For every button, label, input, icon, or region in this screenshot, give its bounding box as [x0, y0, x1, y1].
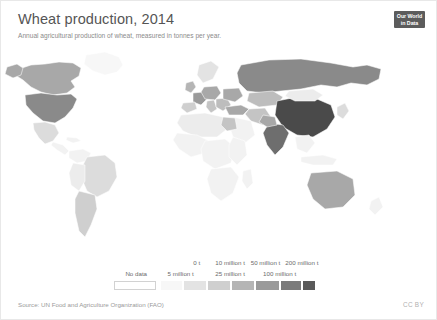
our-world-in-data-logo[interactable]: Our World in Data: [394, 11, 425, 28]
country-japan[interactable]: [337, 103, 349, 119]
legend-swatch-0[interactable]: [160, 281, 182, 290]
license-note[interactable]: CC BY: [403, 301, 424, 308]
country-peru-bolivia[interactable]: [69, 163, 85, 191]
page-title: Wheat production, 2014: [18, 11, 426, 28]
legend-swatch-5[interactable]: [280, 281, 302, 290]
country-spain[interactable]: [181, 102, 197, 113]
country-mexico[interactable]: [33, 122, 59, 144]
legend-boundary-3: 200 million t: [285, 259, 318, 266]
country-new-zealand[interactable]: [369, 197, 383, 215]
legend-bin-label-2[interactable]: 100 million t: [263, 270, 296, 277]
country-canada[interactable]: [15, 62, 81, 95]
legend-swatch-1[interactable]: [183, 281, 207, 290]
legend-boundary-2: 50 million t: [251, 259, 281, 266]
country-india[interactable]: [263, 123, 289, 155]
country-united-kingdom[interactable]: [185, 81, 196, 93]
source-note[interactable]: Source: UN Food and Agriculture Organiza…: [18, 301, 164, 308]
choropleth-map[interactable]: [1, 45, 437, 253]
legend-swatch-2[interactable]: [207, 281, 231, 290]
chart-header: Wheat production, 2014 Annual agricultur…: [18, 11, 426, 40]
country-ukraine[interactable]: [223, 88, 243, 102]
legend-swatch-no-data[interactable]: [114, 281, 156, 290]
country-madagascar[interactable]: [242, 169, 253, 189]
legend-boundary-labels: 0 t 10 million t 50 million t 200 millio…: [114, 259, 316, 269]
legend-bin-labels: No data 5 million t 25 million t 100 mil…: [114, 270, 316, 280]
region-north-africa[interactable]: [177, 113, 227, 137]
legend-swatch-3[interactable]: [231, 281, 255, 290]
brand-line-1: Our World: [397, 13, 422, 20]
country-united-states[interactable]: [25, 93, 77, 123]
legend-color-strip: [114, 281, 316, 290]
legend-bin-label-0[interactable]: 5 million t: [168, 270, 194, 277]
country-pakistan[interactable]: [259, 115, 277, 127]
country-greenland[interactable]: [84, 52, 123, 75]
country-australia[interactable]: [307, 171, 355, 209]
chart-frame: Wheat production, 2014 Annual agricultur…: [0, 0, 437, 320]
region-southern-africa[interactable]: [207, 167, 239, 201]
region-caribbean[interactable]: [66, 137, 81, 143]
country-italy[interactable]: [206, 100, 217, 113]
map-legend: 0 t 10 million t 50 million t 200 millio…: [114, 259, 316, 291]
region-southeast-asia[interactable]: [295, 135, 315, 153]
country-scandinavia[interactable]: [197, 61, 219, 83]
region-indonesia[interactable]: [301, 155, 337, 165]
legend-bin-label-1[interactable]: 25 million t: [215, 270, 245, 277]
brand-line-2: in Data: [401, 20, 418, 27]
region-central-america[interactable]: [51, 142, 69, 155]
legend-boundary-0: 0 t: [193, 259, 200, 266]
country-brazil[interactable]: [81, 155, 117, 197]
countries-layer: [5, 52, 383, 237]
legend-boundary-1: 10 million t: [215, 259, 245, 266]
legend-no-data-label[interactable]: No data: [125, 270, 147, 277]
chart-subtitle: Annual agricultural production of wheat,…: [18, 31, 426, 40]
country-argentina-chile[interactable]: [75, 191, 97, 237]
legend-swatch-6[interactable]: [302, 281, 316, 290]
legend-swatch-4[interactable]: [255, 281, 279, 290]
world-map-svg: [1, 45, 437, 253]
country-russia[interactable]: [237, 59, 381, 93]
